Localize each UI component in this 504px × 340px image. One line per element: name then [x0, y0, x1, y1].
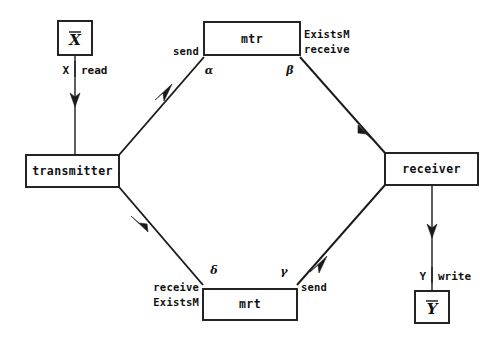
io-label-x-channel: X — [62, 64, 69, 77]
port-label-mrt-existsm: ExistsM — [153, 296, 199, 308]
port-label-mrt-receive: receive — [153, 281, 199, 293]
io-label-x-read: X read — [62, 61, 107, 77]
mrt-label: mrt — [239, 297, 261, 311]
port-label-mtr-existsm: ExistsM — [304, 28, 350, 40]
io-label-y-write: Y write — [419, 267, 471, 283]
x-store-label: X — [68, 31, 82, 49]
greek-label-delta: δ — [209, 264, 217, 277]
arrowhead-transmitter-to-mtr — [155, 84, 172, 101]
io-label-y-action: write — [438, 270, 471, 283]
node-receiver[interactable]: receiver — [385, 153, 478, 185]
node-mtr[interactable]: mtr — [204, 22, 300, 55]
greek-label-gamma: γ — [280, 265, 288, 278]
diagram-canvas: X mtr transmitter receiver mrt Y — [0, 0, 504, 340]
port-label-mtr-receive: receive — [304, 43, 350, 55]
receiver-label: receiver — [402, 162, 461, 176]
greek-label-beta: β — [285, 64, 294, 77]
transmitter-label: transmitter — [32, 164, 113, 178]
io-label-x-action: read — [81, 64, 108, 77]
node-mrt[interactable]: mrt — [203, 289, 297, 320]
node-y-store[interactable]: Y — [415, 291, 449, 323]
io-label-y-channel: Y — [419, 270, 426, 283]
port-label-mtr-send: send — [173, 45, 199, 57]
arrowhead-mtr-to-receiver — [358, 125, 374, 141]
protocol-diagram: X mtr transmitter receiver mrt Y — [0, 0, 504, 340]
edge-mtr-to-receiver — [300, 57, 385, 153]
greek-label-alpha: α — [205, 64, 214, 77]
node-x-store[interactable]: X — [58, 21, 92, 55]
y-store-label: Y — [427, 300, 439, 318]
node-transmitter[interactable]: transmitter — [26, 155, 119, 187]
mtr-label: mtr — [241, 32, 263, 46]
edge-receiver-to-mrt — [297, 185, 385, 285]
edge-transmitter-to-mtr — [119, 57, 204, 155]
port-label-mrt-send: send — [301, 281, 327, 293]
arrowhead-receiver-to-mrt — [310, 256, 327, 273]
edge-mrt-to-transmitter — [119, 187, 203, 285]
